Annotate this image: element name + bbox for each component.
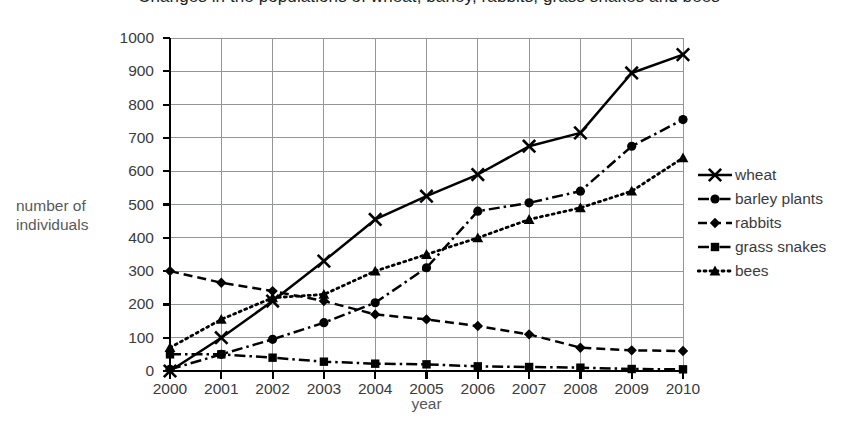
data-point-marker xyxy=(319,318,328,327)
y-tick-label: 900 xyxy=(102,64,154,78)
legend-item-grass-snakes[interactable]: grass snakes xyxy=(697,235,855,259)
x-tick-label: 2008 xyxy=(552,382,608,396)
data-point-marker xyxy=(710,218,720,228)
data-point-marker xyxy=(217,350,225,358)
data-point-marker xyxy=(371,298,380,307)
data-point-marker xyxy=(575,342,585,352)
y-tick-label: 700 xyxy=(102,131,154,145)
data-point-marker xyxy=(678,346,688,356)
y-tick-label: 0 xyxy=(102,364,154,378)
y-tick-label: 300 xyxy=(102,264,154,278)
y-tick-label: 800 xyxy=(102,98,154,112)
legend-label: rabbits xyxy=(733,214,782,232)
x-tick-label: 2004 xyxy=(347,382,403,396)
x-tick-label: 2006 xyxy=(450,382,506,396)
data-point-marker xyxy=(628,365,636,373)
y-axis-title-line-1: number of xyxy=(16,196,128,215)
chart-legend: wheatbarley plantsrabbitsgrass snakesbee… xyxy=(697,163,855,283)
chart-axes xyxy=(163,38,685,379)
y-axis-title-line-2: individuals xyxy=(16,215,128,234)
legend-item-wheat[interactable]: wheat xyxy=(697,163,855,187)
x-tick-label: 2007 xyxy=(501,382,557,396)
data-point-marker xyxy=(422,263,431,272)
x-tick-label: 2005 xyxy=(399,382,455,396)
legend-swatch-circle-icon xyxy=(697,189,733,209)
data-point-marker xyxy=(165,365,174,374)
data-point-marker xyxy=(216,278,226,288)
y-tick-label: 600 xyxy=(102,164,154,178)
data-point-marker xyxy=(576,363,584,371)
legend-label: grass snakes xyxy=(733,238,826,256)
data-point-marker xyxy=(473,207,482,216)
data-point-marker xyxy=(627,345,637,355)
data-point-marker xyxy=(678,115,687,124)
data-point-marker xyxy=(371,359,379,367)
data-point-marker xyxy=(474,362,482,370)
x-tick-label: 2010 xyxy=(655,382,711,396)
data-point-marker xyxy=(711,243,719,251)
data-point-marker xyxy=(710,194,719,203)
data-point-marker xyxy=(165,342,176,352)
x-tick-label: 2001 xyxy=(193,382,249,396)
x-axis-title: year xyxy=(170,395,683,413)
data-point-marker xyxy=(320,357,328,365)
data-point-marker xyxy=(524,214,535,224)
x-tick-label: 2000 xyxy=(142,382,198,396)
data-point-marker xyxy=(678,152,689,162)
legend-swatch-square-icon xyxy=(697,237,733,257)
legend-swatch-diamond-icon xyxy=(697,213,733,233)
legend-swatch-triangle-icon xyxy=(697,261,733,281)
legend-item-barley-plants[interactable]: barley plants xyxy=(697,187,855,211)
chart-figure: Changes in the populations of wheat, bar… xyxy=(0,0,858,448)
data-point-marker xyxy=(165,266,175,276)
y-axis-title: number of individuals xyxy=(16,196,128,234)
x-tick-label: 2009 xyxy=(604,382,660,396)
x-tick-label: 2002 xyxy=(245,382,301,396)
data-point-marker xyxy=(268,335,277,344)
y-tick-label: 1000 xyxy=(102,31,154,45)
data-point-marker xyxy=(626,186,637,196)
data-point-marker xyxy=(422,360,430,368)
data-point-marker xyxy=(473,321,483,331)
legend-item-rabbits[interactable]: rabbits xyxy=(697,211,855,235)
legend-swatch-x-icon xyxy=(697,165,733,185)
data-point-marker xyxy=(627,142,636,151)
legend-label: barley plants xyxy=(733,190,823,208)
data-point-marker xyxy=(421,249,432,259)
data-point-marker xyxy=(525,198,534,207)
data-point-marker xyxy=(268,353,276,361)
legend-label: bees xyxy=(733,262,769,280)
data-point-marker xyxy=(421,314,431,324)
y-tick-label: 100 xyxy=(102,331,154,345)
data-point-marker xyxy=(679,365,687,373)
legend-label: wheat xyxy=(733,166,776,184)
data-point-marker xyxy=(525,363,533,371)
data-point-marker xyxy=(576,187,585,196)
y-tick-label: 200 xyxy=(102,297,154,311)
data-point-marker xyxy=(370,309,380,319)
legend-item-bees[interactable]: bees xyxy=(697,259,855,283)
x-tick-label: 2003 xyxy=(296,382,352,396)
